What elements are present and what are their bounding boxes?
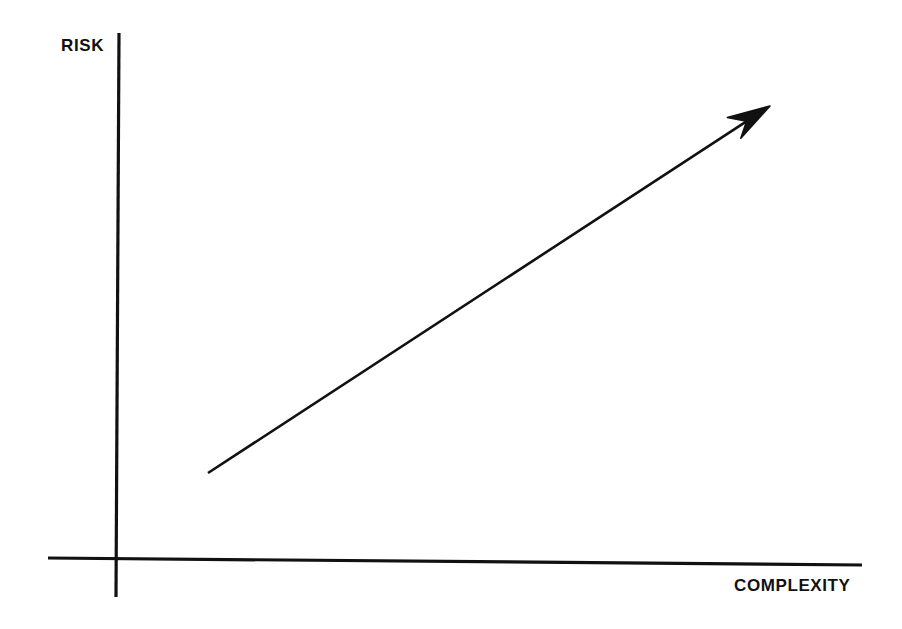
- risk-complexity-figure: RISK COMPLEXITY: [0, 0, 902, 629]
- y-axis-label: RISK: [61, 37, 104, 54]
- x-axis-label: COMPLEXITY: [734, 577, 851, 594]
- trend-arrow-line: [208, 119, 751, 473]
- x-axis-line: [48, 558, 862, 565]
- trend-arrow-head-icon: [727, 106, 770, 138]
- y-axis-line: [116, 33, 119, 597]
- figure-canvas: [0, 0, 902, 629]
